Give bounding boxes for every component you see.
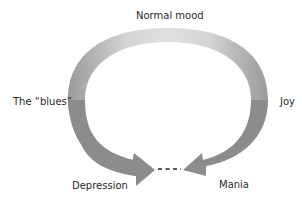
label-depression: Depression: [72, 180, 128, 191]
label-joy: Joy: [280, 96, 295, 107]
right-arrow-mania: [183, 100, 268, 176]
normal-mood-arc: [68, 28, 268, 100]
label-mania: Mania: [219, 179, 249, 190]
label-the-blues: The “blues”: [13, 96, 72, 107]
label-normal-mood: Normal mood: [136, 10, 204, 21]
